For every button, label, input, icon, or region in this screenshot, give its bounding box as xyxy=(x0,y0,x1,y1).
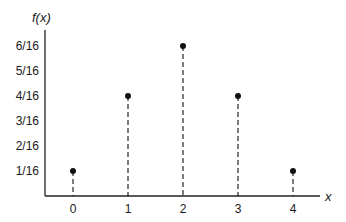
y-tick-label: 3/16 xyxy=(16,114,40,128)
x-tick-label: 0 xyxy=(70,202,77,216)
x-tick-label: 2 xyxy=(180,202,187,216)
x-tick-labels: 01234 xyxy=(70,202,297,216)
data-point-marker xyxy=(70,168,76,174)
y-axis-label: f(x) xyxy=(32,10,51,25)
pmf-stem-chart: f(x) x 1/162/163/164/165/166/16 01234 xyxy=(0,0,346,222)
y-tick-label: 2/16 xyxy=(16,139,40,153)
y-tick-label: 6/16 xyxy=(16,39,40,53)
x-tick-label: 3 xyxy=(235,202,242,216)
y-tick-labels: 1/162/163/164/165/166/16 xyxy=(16,39,40,178)
data-point-marker xyxy=(290,168,296,174)
x-tick-label: 4 xyxy=(290,202,297,216)
y-tick-label: 4/16 xyxy=(16,89,40,103)
x-tick-label: 1 xyxy=(125,202,132,216)
stems xyxy=(70,43,296,196)
y-tick-label: 1/16 xyxy=(16,164,40,178)
data-point-marker xyxy=(180,43,186,49)
x-axis-label: x xyxy=(324,189,332,204)
data-point-marker xyxy=(125,93,131,99)
y-tick-label: 5/16 xyxy=(16,64,40,78)
data-point-marker xyxy=(235,93,241,99)
